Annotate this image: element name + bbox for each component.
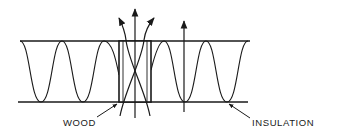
- insulation-label: INSULATION: [252, 118, 314, 128]
- wood-label: WOOD: [63, 118, 96, 128]
- wood-leader-arrow: [97, 104, 117, 117]
- insulation-leader-arrow: [229, 104, 250, 118]
- wall-section-diagram: [0, 0, 339, 135]
- insulation-wave-left: [20, 41, 119, 102]
- insulation-wave-right: [151, 41, 248, 102]
